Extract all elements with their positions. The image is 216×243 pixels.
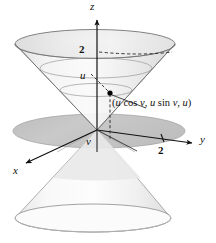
v-parameter-label: v [86,136,91,147]
z-axis-label: z [90,1,94,12]
u-parameter-label: u [80,70,86,81]
sin-term: sin [155,97,173,108]
y-axis-tick-label-2: 2 [158,145,164,156]
cos-term: cos [121,97,140,108]
paren-close: ) [188,97,192,108]
y-axis-label: y [200,134,205,145]
point-coordinates-label: (u cos v, u sin v, u) [112,98,191,109]
math-figure-double-cone: z x y 2 2 u v (u cos v, u sin v, u) [0,0,216,243]
x-axis-label: x [13,165,18,176]
surface-point-marker [107,90,112,95]
figure-canvas [0,0,216,243]
z-axis-tick-label-2: 2 [79,44,85,55]
